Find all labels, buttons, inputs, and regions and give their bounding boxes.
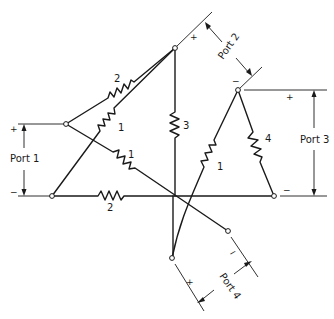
resistor-bottom-wire (52, 191, 274, 200)
port1-label: Port 1 (10, 153, 39, 164)
resistor-bottom-value: 2 (107, 202, 113, 213)
resistor-left-diag-value: 1 (118, 122, 124, 133)
port4-plus-terminal (170, 256, 175, 261)
port2-minus-port3-plus-terminal (236, 88, 241, 93)
resistor-port4-diag-value: 1 (217, 161, 223, 172)
resistor-vertical-wire (170, 48, 179, 196)
port1-minus-sign: − (10, 187, 18, 197)
resistor-top-left-value: 2 (114, 73, 120, 84)
port4-minus-sign: − (227, 246, 239, 258)
port4-plus-extension (175, 264, 204, 311)
port1-plus-sign: + (10, 124, 18, 134)
resistor-vertical-value: 3 (183, 120, 189, 131)
port3-label: Port 3 (300, 134, 329, 145)
port2-label: Port 2 (216, 31, 242, 61)
port4-plus-sign: + (186, 277, 194, 287)
port1-minus-terminal (50, 194, 55, 199)
port2-plus-extension (175, 12, 212, 48)
port2-plus-terminal (173, 46, 178, 51)
resistor-cross-value: 1 (128, 149, 134, 160)
circuit-diagram: + − Port 1 + − Port 2 + − Port 3 + − Por… (0, 0, 334, 319)
resistor-top-left-wire (66, 48, 175, 124)
resistor-right-value: 4 (265, 133, 271, 144)
port1-plus-terminal (64, 122, 69, 127)
port4-label: Port 4 (217, 271, 243, 301)
port3-plus-sign: + (286, 92, 294, 102)
port4-minus-terminal (226, 229, 231, 234)
port2-minus-sign: − (232, 76, 240, 86)
port3-minus-terminal (272, 194, 277, 199)
port3-minus-sign: − (283, 185, 291, 195)
port2-plus-sign: + (190, 32, 198, 42)
resistor-cross-wire (66, 124, 228, 231)
